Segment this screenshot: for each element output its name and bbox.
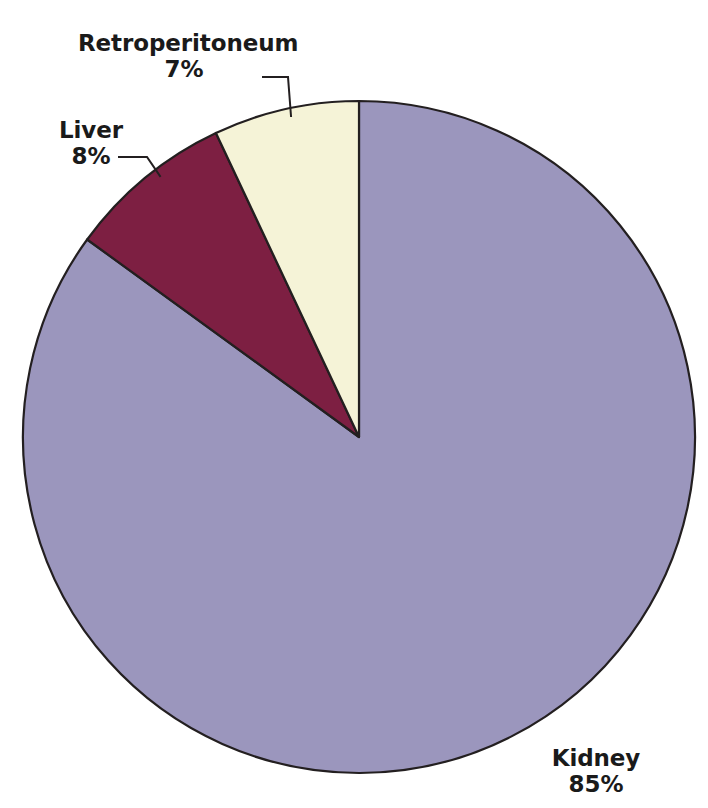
pie-chart: Retroperitoneum 7% Liver 8% Kidney 85%	[0, 0, 708, 808]
pie-label-kidney: Kidney 85%	[548, 745, 644, 797]
pie-label-liver: Liver 8%	[52, 117, 130, 169]
pie-label-liver-value: 8%	[52, 143, 130, 169]
pie-label-retroperitoneum: Retroperitoneum 7%	[78, 30, 290, 82]
pie-label-liver-name: Liver	[52, 117, 130, 143]
pie-label-kidney-value: 85%	[548, 771, 644, 797]
pie-label-kidney-name: Kidney	[548, 745, 644, 771]
pie-label-retroperitoneum-value: 7%	[78, 56, 290, 82]
pie-label-retroperitoneum-name: Retroperitoneum	[78, 30, 290, 56]
